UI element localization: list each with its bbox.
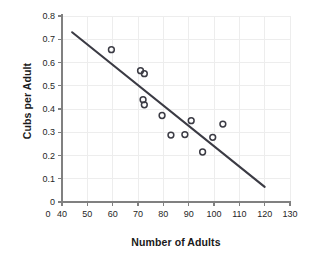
- data-point: [188, 118, 194, 124]
- data-point: [109, 47, 115, 53]
- line-of-best-fit: [72, 32, 265, 187]
- x-tick-label: 40: [57, 209, 67, 219]
- data-point: [159, 113, 165, 119]
- x-axis-title: Number of Adults: [62, 236, 290, 248]
- trend-line: [72, 32, 265, 187]
- x-tick-labels: 0405060708090100110120130: [45, 209, 297, 219]
- y-tick-label: 0.3: [42, 127, 55, 137]
- y-tick-label: 0.5: [42, 81, 55, 91]
- data-point: [220, 121, 226, 127]
- y-tick-label: 0.7: [42, 34, 55, 44]
- y-tick-label: 0: [50, 197, 55, 207]
- x-tick-label: 130: [282, 209, 297, 219]
- x-tick-label: 120: [257, 209, 272, 219]
- y-tick-label: 0.1: [42, 174, 55, 184]
- x-tick-label: 70: [133, 209, 143, 219]
- x-tick-label: 90: [184, 209, 194, 219]
- x-tick-label: 0: [45, 209, 50, 219]
- y-gridlines: [62, 16, 290, 202]
- scatter-plot-figure: 00.10.20.30.40.50.60.70.8 04050607080901…: [0, 0, 311, 261]
- plot-canvas: 00.10.20.30.40.50.60.70.8 04050607080901…: [0, 0, 311, 261]
- y-tick-label: 0.6: [42, 58, 55, 68]
- y-tick-label: 0.8: [42, 11, 55, 21]
- x-tick-label: 100: [206, 209, 221, 219]
- data-point: [168, 132, 174, 138]
- x-tick-label: 50: [82, 209, 92, 219]
- x-tick-label: 60: [108, 209, 118, 219]
- x-tick-label: 80: [158, 209, 168, 219]
- data-points: [109, 47, 226, 155]
- tick-marks: [58, 16, 290, 206]
- y-axis-title: Cubs per Adult: [18, 0, 36, 202]
- data-point: [210, 134, 216, 140]
- data-point: [200, 149, 206, 155]
- axis-lines: [62, 14, 291, 202]
- y-tick-labels: 00.10.20.30.40.50.60.70.8: [42, 11, 55, 207]
- y-tick-label: 0.2: [42, 151, 55, 161]
- y-tick-label: 0.4: [42, 104, 55, 114]
- x-tick-label: 110: [232, 209, 246, 219]
